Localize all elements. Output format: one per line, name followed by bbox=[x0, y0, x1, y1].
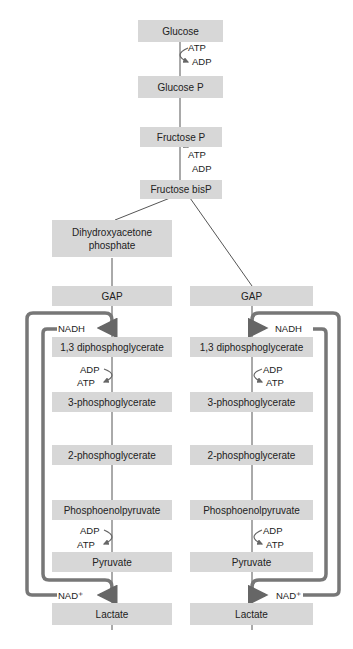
left-node-3pg: 3-phosphoglycerate bbox=[52, 392, 172, 412]
right-label-atp: ATP bbox=[266, 539, 284, 550]
label-atp: ATP bbox=[188, 149, 206, 160]
label-adp: ADP bbox=[192, 163, 212, 174]
left-label-nad: NAD⁺ bbox=[58, 590, 83, 601]
left-label-adp: ADP bbox=[80, 364, 100, 375]
left-label-adp: ADP bbox=[80, 525, 100, 536]
right-node-lactate: Lactate bbox=[190, 603, 313, 625]
left-label-atp: ATP bbox=[77, 539, 95, 550]
right-node-3pg: 3-phosphoglycerate bbox=[190, 392, 313, 412]
node-fructose-p: Fructose P bbox=[140, 127, 222, 147]
node-glucose-p: Glucose P bbox=[138, 76, 223, 98]
label-adp: ADP bbox=[192, 56, 212, 67]
left-node-2pg: 2-phosphoglycerate bbox=[52, 445, 172, 465]
right-label-nadh: NADH bbox=[275, 323, 302, 334]
right-node-2pg: 2-phosphoglycerate bbox=[190, 445, 313, 465]
right-label-adp: ADP bbox=[263, 364, 283, 375]
right-node-pyruvate: Pyruvate bbox=[190, 552, 313, 572]
left-node-pep: Phosphoenolpyruvate bbox=[52, 500, 172, 520]
node-dhap: Dihydroxyacetone phosphate bbox=[52, 220, 172, 257]
left-node-gap: GAP bbox=[52, 286, 172, 306]
right-label-atp: ATP bbox=[266, 377, 284, 388]
node-glucose: Glucose bbox=[138, 20, 223, 42]
right-node-13dpg: 1,3 diphosphoglycerate bbox=[190, 337, 313, 357]
right-node-gap: GAP bbox=[190, 286, 313, 306]
label-atp: ATP bbox=[188, 42, 206, 53]
left-node-lactate: Lactate bbox=[52, 603, 172, 625]
left-label-atp: ATP bbox=[77, 377, 95, 388]
node-fructose-bisp: Fructose bisP bbox=[140, 180, 222, 199]
right-node-pep: Phosphoenolpyruvate bbox=[190, 500, 313, 520]
right-label-nad: NAD⁺ bbox=[276, 590, 301, 601]
left-node-13dpg: 1,3 diphosphoglycerate bbox=[52, 337, 172, 357]
right-label-adp: ADP bbox=[263, 525, 283, 536]
left-node-pyruvate: Pyruvate bbox=[52, 552, 172, 572]
left-label-nadh: NADH bbox=[58, 323, 85, 334]
